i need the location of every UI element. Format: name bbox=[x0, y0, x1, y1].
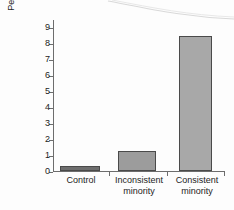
x-label-control: Control bbox=[52, 175, 110, 186]
bar-control bbox=[60, 166, 100, 171]
x-label-consistent-minority: Consistent minority bbox=[168, 175, 226, 196]
y-tick-label: 7 bbox=[45, 54, 50, 65]
y-tick-label: 3 bbox=[45, 118, 50, 129]
x-label-inconsistent-minority: Inconsistent minority bbox=[110, 175, 168, 196]
y-axis-line bbox=[53, 20, 54, 172]
bar-chart-figure: Percentage of green responses 0 1 2 3 4 … bbox=[0, 0, 234, 210]
y-tick-label: 9 bbox=[45, 22, 50, 33]
y-axis-title-text: Percentage of green responses bbox=[6, 0, 28, 11]
y-tick-label: 0 bbox=[45, 166, 50, 177]
bar-consistent-minority bbox=[179, 36, 212, 171]
y-tick-label: 4 bbox=[45, 102, 50, 113]
y-axis-title: Percentage of green responses bbox=[4, 0, 30, 46]
y-tick-label: 1 bbox=[45, 150, 50, 161]
y-tick-label: 6 bbox=[45, 70, 50, 81]
bar-inconsistent-minority bbox=[118, 151, 156, 171]
x-axis-line bbox=[53, 171, 225, 172]
y-tick-label: 8 bbox=[45, 38, 50, 49]
plot-area: 0 1 2 3 4 5 6 7 bbox=[53, 20, 225, 172]
y-tick-label: 2 bbox=[45, 134, 50, 145]
y-tick-label: 5 bbox=[45, 86, 50, 97]
